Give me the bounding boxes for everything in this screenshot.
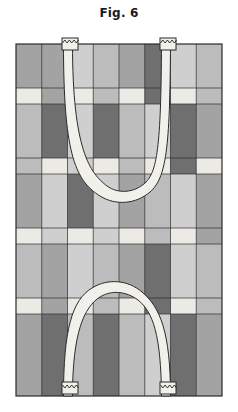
weave-cell (196, 314, 222, 396)
weave-cell (93, 104, 119, 158)
weave-cell (42, 298, 68, 314)
weave-cell (93, 158, 119, 174)
weave-cell (16, 158, 42, 174)
lower-handle-left-tab (62, 382, 79, 394)
weave-cell (16, 104, 42, 158)
weave-cell (93, 298, 119, 314)
weave-cell (42, 174, 68, 228)
weave-cell (196, 174, 222, 228)
weave-cell (119, 228, 145, 244)
weave-cell (16, 298, 42, 314)
weave-cell (196, 228, 222, 244)
weave-cell (93, 228, 119, 244)
weave-cell (145, 228, 171, 244)
weave-cell (119, 158, 145, 174)
weave-cell (196, 298, 222, 314)
weave-cell (196, 244, 222, 298)
weave-cell (196, 88, 222, 104)
weave-cell (16, 88, 42, 104)
weave-cell (16, 228, 42, 244)
bag-diagram-svg (0, 0, 238, 412)
weave-cell (119, 88, 145, 104)
weave-cell (171, 298, 197, 314)
weave-cell (16, 174, 42, 228)
weave-cell (16, 44, 42, 88)
weave-cell (93, 314, 119, 396)
weave-cell (42, 228, 68, 244)
weave-cell (171, 244, 197, 298)
weave-cell (119, 44, 145, 88)
weave-cell (42, 104, 68, 158)
weave-cell (93, 88, 119, 104)
upper-handle-right-tab (160, 38, 177, 50)
weave-cell (119, 104, 145, 158)
weave-cell (171, 44, 197, 88)
weave-cell (16, 244, 42, 298)
weave-cell (16, 314, 42, 396)
woven-tote-bag-figure (0, 0, 238, 412)
weave-cell (171, 174, 197, 228)
weave-cell (196, 158, 222, 174)
weave-cell (171, 104, 197, 158)
weave-cell (42, 158, 68, 174)
weave-cell (171, 88, 197, 104)
weave-cell (93, 44, 119, 88)
weave-cell (68, 228, 94, 244)
weave-cell (196, 104, 222, 158)
weave-cell (42, 244, 68, 298)
weave-cell (196, 44, 222, 88)
weave-cell (145, 244, 171, 298)
weave-cell (171, 228, 197, 244)
weave-cell (171, 158, 197, 174)
weave-cell (119, 314, 145, 396)
upper-handle-left-tab (62, 38, 79, 50)
lower-handle-right-tab (160, 382, 177, 394)
